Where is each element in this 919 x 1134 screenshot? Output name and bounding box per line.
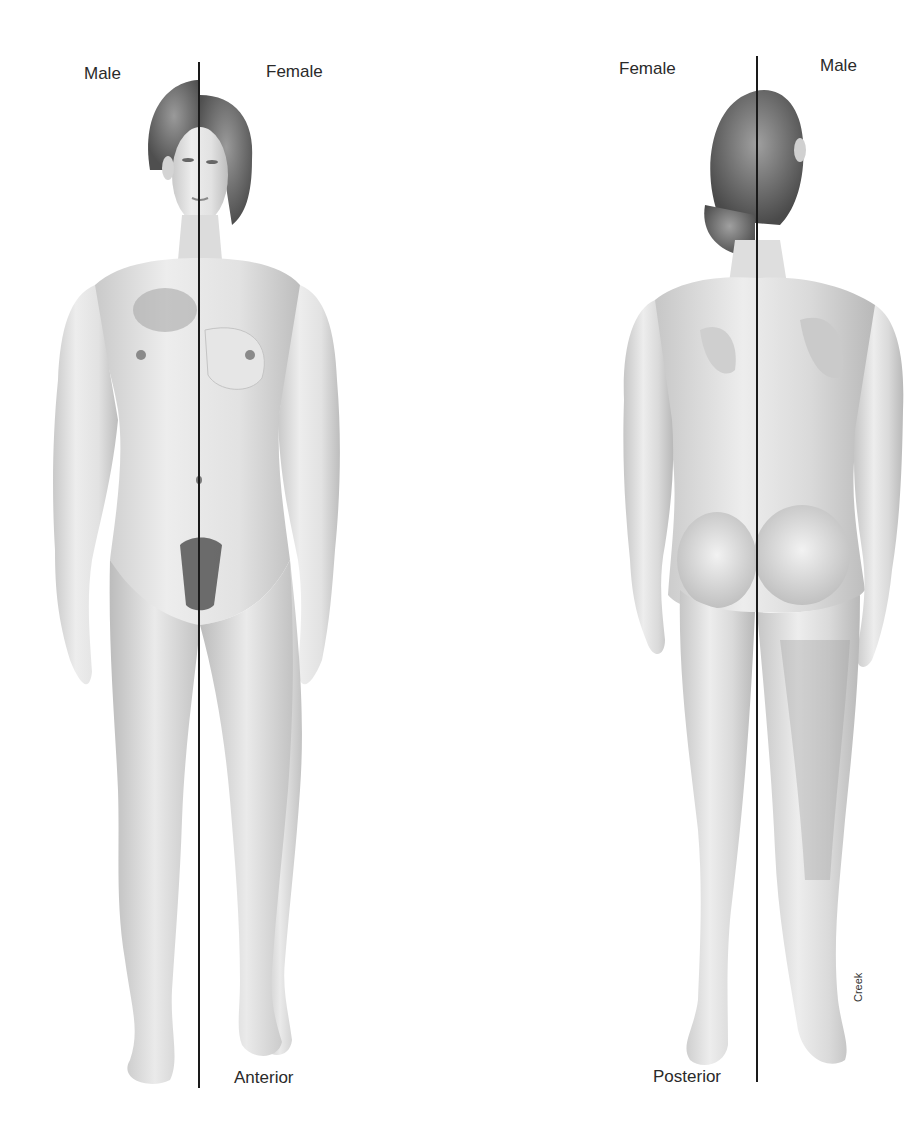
anterior-female-label: Female [266,62,323,82]
anterior-view-label: Anterior [234,1068,294,1088]
posterior-female-label: Female [619,59,676,79]
posterior-midline-divider [756,56,758,1082]
posterior-view-label: Posterior [653,1067,721,1087]
anterior-male-label: Male [84,64,121,84]
posterior-male-label: Male [820,56,857,76]
posterior-male-buttock [754,505,850,605]
anterior-midline-divider [198,62,200,1088]
artist-signature: Creek [852,973,864,1002]
posterior-female-buttock [677,512,757,608]
posterior-female-leg [680,590,755,1065]
posterior-figure-illustration [0,0,919,1134]
